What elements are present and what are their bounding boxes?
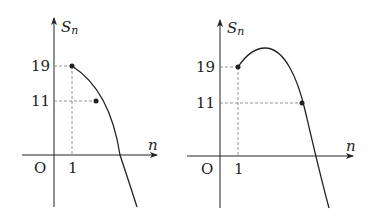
point-marker — [236, 65, 241, 70]
point-marker — [94, 99, 99, 104]
right-graph: Sn n O 1 19 11 — [187, 19, 356, 208]
y-tick-label: 11 — [31, 92, 50, 110]
origin-label: O — [34, 159, 46, 177]
y-tick-label: 11 — [196, 94, 215, 112]
x-tick-label: 1 — [68, 159, 78, 177]
point-marker — [300, 101, 305, 106]
left-graph: Sn n O 1 19 11 — [22, 18, 158, 207]
x-tick-label: 1 — [234, 160, 244, 178]
origin-label: O — [201, 160, 213, 178]
y-tick-label: 19 — [196, 58, 215, 76]
curve — [72, 66, 137, 207]
x-axis-label: n — [346, 137, 356, 155]
y-tick-label: 19 — [31, 57, 50, 75]
y-axis-label: Sn — [61, 18, 78, 37]
y-axis-label: Sn — [227, 19, 244, 38]
x-axis-label: n — [148, 136, 158, 154]
graphs-figure: Sn n O 1 19 11 Sn n O 1 19 11 — [0, 0, 374, 216]
curve — [238, 48, 329, 208]
point-marker — [70, 64, 75, 69]
